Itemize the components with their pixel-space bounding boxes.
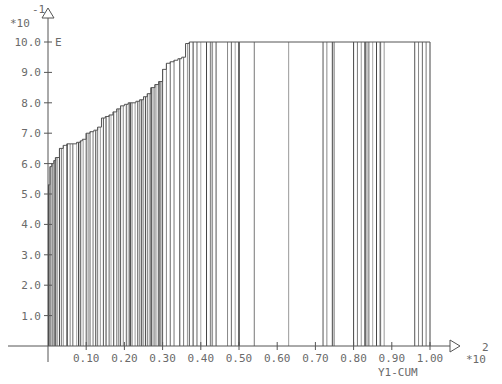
y-tick-label: 2.0: [21, 279, 41, 292]
y-multiplier: *10: [10, 17, 30, 30]
y-tick-label: 7.0: [21, 127, 41, 140]
y-tick-label: 10.0: [15, 36, 42, 49]
x-multiplier: *10: [466, 353, 486, 366]
x-tick-label: 0.40: [188, 352, 215, 365]
y-tick-label: 5.0: [21, 188, 41, 201]
y-tick-label: 8.0: [21, 97, 41, 110]
y-tick-label: 1.0: [21, 310, 41, 323]
x-tick-label: 0.50: [226, 352, 253, 365]
x-tick-label: 0.20: [111, 352, 138, 365]
x-tick-label: 0.60: [264, 352, 291, 365]
x-tick-label: 1.00: [417, 352, 444, 365]
y-axis-label: E: [55, 36, 62, 49]
y-tick-label: 6.0: [21, 158, 41, 171]
y-tick-label: 3.0: [21, 249, 41, 262]
y-exponent: -1: [32, 3, 45, 16]
x-tick-label: 0.30: [149, 352, 176, 365]
y-ticks: 1.02.03.04.05.06.07.08.09.010.0: [15, 36, 53, 323]
x-tick-label: 0.90: [379, 352, 406, 365]
x-axis-arrow-icon: [450, 340, 460, 352]
x-tick-label: 0.10: [73, 352, 100, 365]
y-tick-label: 9.0: [21, 66, 41, 79]
x-tick-label: 0.70: [302, 352, 329, 365]
drop-lines: [49, 42, 430, 346]
step-chart: 1.02.03.04.05.06.07.08.09.010.0 0.100.20…: [0, 0, 502, 384]
y-tick-label: 4.0: [21, 218, 41, 231]
x-tick-label: 0.80: [340, 352, 367, 365]
x-axis-label: Y1-CUM: [378, 366, 418, 379]
